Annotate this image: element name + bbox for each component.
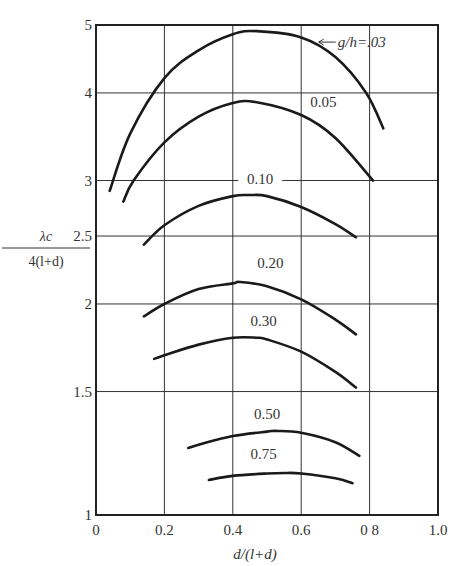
x-tick-label: 0 8 — [360, 522, 379, 538]
y-tick-label: 4 — [85, 85, 93, 101]
y-axis-label-denominator: 4(l+d) — [28, 254, 63, 270]
x-tick-label: 0.2 — [155, 522, 174, 538]
y-tick-label: 5 — [85, 17, 93, 33]
y-tick-label: 2.5 — [73, 228, 92, 244]
x-tick-label: 0 — [92, 522, 100, 538]
y-tick-label: 1 — [85, 507, 93, 523]
curve-label: 0.30 — [250, 313, 276, 329]
curve-label: g/h=.03 — [338, 34, 386, 50]
curve-g-h-.03 — [110, 31, 384, 191]
curve-label: 0.20 — [257, 255, 283, 271]
curve-0.75 — [209, 473, 353, 483]
y-tick-label: 1.5 — [73, 384, 92, 400]
chart: g/h=.030.050.100.200.300.500.75 00.20.40… — [0, 0, 451, 566]
x-tick-label: 0.6 — [292, 522, 311, 538]
curve-label: 0.05 — [310, 94, 336, 110]
x-tick-label: 0.4 — [223, 522, 242, 538]
y-tick-label: 3 — [85, 173, 93, 189]
curve-label: 0.75 — [250, 446, 276, 462]
x-axis-ticks: 00.20.40.60 81.0 — [92, 522, 447, 538]
y-axis-label-numerator: λc — [39, 229, 53, 244]
curve-label: 0.50 — [254, 406, 280, 422]
x-tick-label: 1.0 — [429, 522, 448, 538]
curves — [110, 31, 384, 483]
x-axis-label: d/(l+d) — [233, 546, 276, 563]
y-tick-label: 2 — [85, 296, 93, 312]
curve-labels: g/h=.030.050.100.200.300.500.75 — [238, 34, 386, 462]
curve-label: 0.10 — [247, 171, 273, 187]
curve-0.30 — [154, 337, 356, 387]
y-axis-ticks: 11.522.5345 — [73, 17, 92, 523]
curve-0.10 — [144, 195, 356, 245]
